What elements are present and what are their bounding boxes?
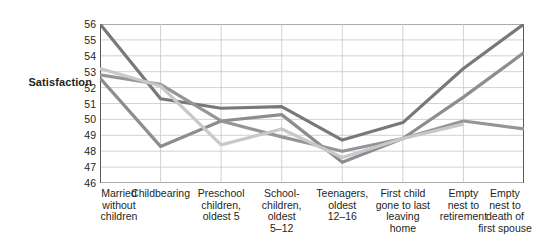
x-axis-tick-label: Teenagers, oldest 12–16	[307, 188, 377, 223]
x-axis-tick-label: First child gone to last leaving home	[368, 188, 438, 234]
x-axis-tick-label: Empty nest to death of first spouse	[470, 188, 540, 234]
x-axis-tick-label: School- children, oldest 5–12	[247, 188, 317, 234]
y-axis-tick-label: 50	[64, 113, 96, 125]
x-axis-tick-label: Preschool children, oldest 5	[186, 188, 256, 223]
y-axis-tick-labels: 5655545352515049484746	[64, 18, 96, 188]
x-axis-tick-labels: Married without childrenChildbearingPres…	[84, 188, 540, 246]
y-axis-tick-label: 52	[64, 82, 96, 94]
y-axis-tick-label: 53	[64, 66, 96, 78]
y-axis-tick-label: 54	[64, 50, 96, 62]
satisfaction-line-chart: Satisfaction 5655545352515049484746 Marr…	[0, 0, 546, 248]
y-axis-tick-label: 48	[64, 145, 96, 157]
y-axis-tick-label: 47	[64, 161, 96, 173]
y-axis-tick-label: 51	[64, 98, 96, 110]
y-axis-tick-label: 55	[64, 34, 96, 46]
x-axis-tick-label: Childbearing	[126, 188, 196, 200]
plot-svg	[100, 24, 524, 183]
y-axis-tick-label: 49	[64, 129, 96, 141]
y-axis-tick-label: 56	[64, 18, 96, 30]
plot-area	[100, 24, 524, 183]
data-series-line	[100, 53, 524, 163]
